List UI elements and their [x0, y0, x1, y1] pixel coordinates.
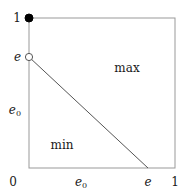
math-figure: 1 e e0 0 e0 e 1 max min	[0, 0, 186, 195]
x-tick-e0-sub: 0	[82, 181, 87, 190]
open-circle-marker	[25, 53, 32, 60]
x-tick-e-base: e	[144, 175, 151, 189]
region-label-min: min	[51, 139, 74, 151]
y-tick-label-e0: e0	[2, 104, 21, 116]
x-tick-label-e0: e0	[75, 176, 87, 188]
y-tick-e0-sub: 0	[16, 109, 21, 118]
plot-canvas	[0, 0, 186, 195]
y-tick-e-base: e	[14, 50, 21, 64]
filled-dot-marker	[25, 14, 33, 22]
x-tick-label-e: e	[144, 176, 151, 188]
y-tick-label-e: e	[4, 51, 21, 63]
region-label-max: max	[114, 62, 139, 74]
x-tick-label-0: 0	[9, 176, 17, 188]
y-tick-e0-base: e	[9, 103, 16, 117]
x-tick-label-1: 1	[171, 176, 179, 188]
y-tick-label-1: 1	[4, 12, 21, 24]
